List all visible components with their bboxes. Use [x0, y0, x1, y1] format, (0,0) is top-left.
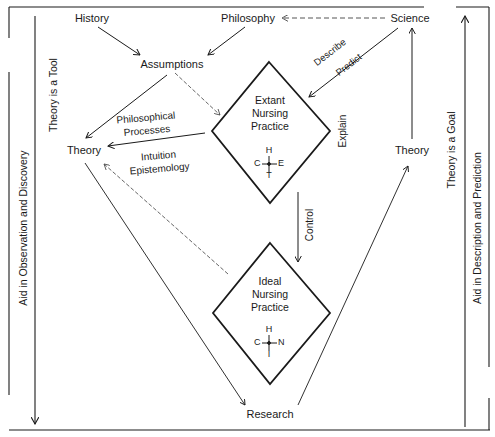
node-history: History	[75, 13, 109, 24]
edge-philosophy-assumptions	[208, 27, 245, 55]
node-theory-right: Theory	[395, 145, 429, 156]
outer-frame	[9, 7, 490, 430]
extant-practice-title: Extant Nursing Practice	[251, 94, 289, 133]
edge-ideal-theory	[104, 164, 228, 274]
node-research: Research	[246, 409, 293, 420]
ideal-symbol-c: C	[254, 338, 261, 347]
label-philosophical-processes: Philosophical Processes	[116, 108, 177, 139]
edge-history-assumptions	[98, 27, 140, 55]
edge-theory-research	[85, 163, 245, 405]
label-intuition-epistemology: Intuition Epistemology	[128, 146, 190, 177]
ideal-symbol-h: H	[266, 325, 273, 334]
node-assumptions: Assumptions	[141, 59, 204, 70]
label-aid-description-prediction: Aid in Description and Prediction	[472, 152, 483, 304]
ideal-practice-title: Ideal Nursing Practice	[251, 275, 289, 314]
edge-assumptions-extant	[175, 73, 220, 115]
nursing-theory-diagram: History Philosophy Science Assumptions T…	[0, 0, 495, 437]
extant-symbol-t: T	[266, 171, 272, 180]
ideal-symbol-i: I	[268, 350, 271, 359]
label-explain: Explain	[338, 115, 348, 148]
extant-symbol-c: C	[254, 159, 261, 168]
label-control: Control	[305, 209, 315, 241]
label-theory-is-a-goal: Theory is a Goal	[446, 111, 457, 188]
extant-symbol-e: E	[278, 159, 284, 168]
label-aid-observation-discovery: Aid in Observation and Discovery	[18, 150, 29, 305]
node-theory-left: Theory	[67, 145, 101, 156]
diagram-lines	[0, 0, 495, 437]
extant-symbol-h: H	[266, 146, 273, 155]
node-science: Science	[390, 13, 429, 24]
label-theory-is-a-tool: Theory is a Tool	[48, 58, 59, 132]
node-philosophy: Philosophy	[221, 13, 275, 24]
edge-research-theory	[298, 166, 408, 405]
ideal-symbol-n: N	[278, 338, 285, 347]
